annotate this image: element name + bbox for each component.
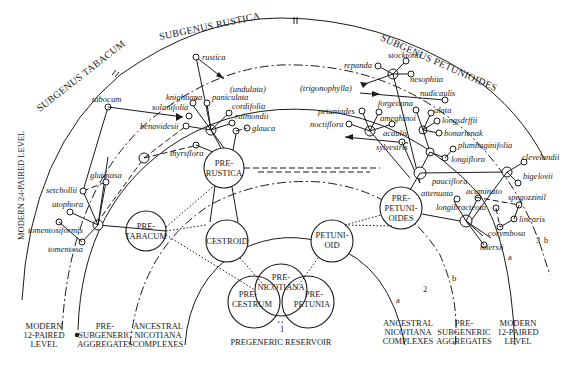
species-attenuata: attenuata	[421, 188, 453, 198]
species-glutinasa: glutinasa	[90, 170, 122, 180]
species-acaulis: acaulis	[383, 128, 408, 138]
species-forgetiana: forgetiana	[378, 98, 413, 108]
species-ameghinoi: ameghinoi	[380, 113, 417, 123]
pre-tabacum-label-2: TABACUM	[125, 231, 167, 241]
left-pre-subgeneric-line3: AGGREGATES	[77, 339, 133, 349]
modern-24-level-label: MODERN 24-PAIRED LEVEL	[16, 131, 26, 240]
right-pre-subgeneric-line3: AGGREGATES	[436, 336, 492, 346]
pre-petunioides-label-2: PETUNI-	[384, 203, 417, 213]
species-stocktonii: stocktonii	[388, 50, 422, 60]
species-raimondii: raimondii	[235, 111, 269, 121]
marker-2: 2	[423, 284, 427, 294]
species-nesophita: nesophita	[410, 74, 443, 84]
pre-petunioides-label-3: OIDES	[388, 213, 413, 223]
species-miersii: miersii	[480, 242, 504, 252]
pregeneric-reservoir-label: PREGENERIC RESERVOIR	[230, 337, 331, 347]
species-trigonophylla: (trigonophylla)	[300, 83, 352, 93]
bottom-left-labels: MODERN 12-PAIRED LEVEL PRE- SUBGENERIC A…	[23, 321, 183, 349]
pre-rustica-label-1: PRE-	[215, 158, 234, 168]
petunioid-label-2: OID	[324, 240, 339, 250]
species-setchollii: setchollii	[46, 185, 78, 195]
pre-rustica-label-2: RUSTICA	[206, 168, 243, 178]
species-bonarienak: bonarienak	[444, 128, 483, 138]
right-ancestral-line3: COMPLEXES	[383, 336, 434, 346]
bottom-right-labels: ANCESTRAL NICOTIANA COMPLEXES PRE- SUBGE…	[383, 318, 539, 346]
species-alata: alata	[434, 105, 451, 115]
species-longiflora: longiflora	[451, 154, 485, 164]
marker-3: 3	[536, 235, 540, 245]
species-bigelovii: bigelovii	[523, 171, 553, 181]
species-sylvestris: sylvestris	[376, 142, 408, 152]
pre-petunioides-label-1: PRE-	[392, 193, 411, 203]
species-corymbosa: corymbosa	[488, 228, 525, 238]
pre-petunia-label-2: PETUNIA	[294, 299, 331, 309]
species-solanifolia: solanifolia	[152, 102, 188, 112]
subgenus-rustica-label: SUBGENUS RUSTICA	[158, 10, 261, 42]
species-nudicaulis: nudicaulis	[420, 88, 456, 98]
marker-a-center: a	[396, 295, 400, 305]
pre-nicotiana-label-2: NICOTIANA	[257, 282, 305, 292]
cestroid-label: CESTROID	[206, 236, 248, 246]
species-glauca: glauca	[252, 123, 275, 133]
species-tomentosiformis: tomentosiformis	[28, 225, 83, 235]
marker-a-right: a	[508, 252, 512, 262]
species-utophora: utophora	[52, 199, 83, 209]
species-benavidesii: benavidesii	[140, 121, 179, 131]
species-cordifolia: cordifolia	[232, 101, 265, 111]
species-plumbaginifolia: plumbaginifolia	[457, 140, 512, 150]
derivation-lines	[166, 168, 392, 322]
pre-petunia-label-1: PRE-	[305, 289, 324, 299]
pre-nicotiana-label-1: PRE-	[272, 272, 291, 282]
species-tomentosa: tomentosa	[48, 244, 83, 254]
species-spegozzinil: spegozzinil	[508, 192, 546, 202]
species-noctiflora: noctiflora	[310, 119, 344, 129]
species-longibracteota: longibracteota	[436, 202, 486, 212]
left-modern-12-line3: LEVEL	[31, 339, 58, 349]
species-repanda: repanda	[344, 60, 372, 70]
species-petuniades: petuniades	[317, 106, 356, 116]
species-clevelandii: clevelandii	[522, 152, 560, 162]
species-longsdrffii: longsdrffii	[442, 115, 478, 125]
pre-cestrum-label-1: PRE-	[239, 289, 258, 299]
right-modern-12-line3: LEVEL	[505, 336, 532, 346]
species-thyrsflora: thyrsflora	[170, 148, 204, 158]
species-rustica: rustica	[202, 52, 226, 62]
petunioid-label-1: PETUNI-	[315, 230, 348, 240]
species-pauciflora: pauciflora	[431, 176, 467, 186]
species-acuminato: acuminato	[466, 186, 502, 196]
species-linearis: linearis	[519, 214, 546, 224]
marker-b-right: b	[544, 235, 548, 245]
species-tabocum: tabocum	[92, 94, 121, 104]
species-knightiana: knightiana	[166, 92, 202, 102]
pre-cestrum-label-2: CESTRUM	[232, 299, 273, 309]
left-ancestral-line3: COMPLEXES	[133, 339, 184, 349]
nicotiana-phylogeny-diagram: SUBGENUS TABACUM SUBGENUS RUSTICA SUBGEN…	[0, 0, 562, 368]
marker-1: 1	[280, 324, 284, 334]
marker-b-center: b	[452, 273, 456, 283]
